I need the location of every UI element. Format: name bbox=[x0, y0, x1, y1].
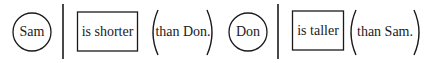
predicate-label-1: is shorter bbox=[82, 25, 134, 39]
subject-label-1: Sam bbox=[20, 25, 45, 39]
right-paren-2 bbox=[414, 10, 419, 55]
left-paren-2 bbox=[351, 10, 356, 55]
sentence-diagram: Sam is shorter than Don. Don is taller t… bbox=[0, 0, 433, 63]
complement-label-2: than Sam. bbox=[357, 25, 413, 39]
subject-label-2: Don bbox=[236, 25, 260, 39]
complement-label-1: than Don. bbox=[155, 25, 210, 39]
predicate-label-2: is taller bbox=[297, 24, 339, 38]
